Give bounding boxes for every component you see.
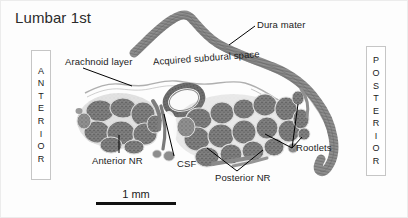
orientation-letter-anterior-4: R [38,115,45,128]
histology-figure: Lumbar 1st Dura mater Arachnoid layer Ac… [0,0,408,218]
figure-title: Lumbar 1st [15,10,91,25]
scale-bar: 1 mm [96,188,176,205]
scale-bar-line [96,202,176,205]
posterior-nerve-root-structure [173,94,309,167]
orientation-letter-posterior-2: S [373,80,379,93]
orientation-letter-posterior-5: R [373,117,380,130]
histology-image [1,1,408,218]
anterior-nerve-root-structure [76,93,175,161]
label-arachnoid-layer: Arachnoid layer [65,57,133,67]
label-csf: CSF [177,159,196,169]
orientation-letter-posterior-7: O [372,142,379,155]
label-posterior-nr: Posterior NR [215,173,271,183]
label-rootlets: Rootlets [296,143,332,153]
orientation-letter-posterior-6: I [375,130,378,143]
orientation-box-anterior: ANTERIOR [31,50,51,180]
orientation-letter-anterior-0: A [38,65,44,78]
orientation-letter-posterior-4: E [373,105,379,118]
orientation-letter-anterior-7: R [38,153,45,166]
orientation-letter-posterior-8: R [373,155,380,168]
label-dura-mater: Dura mater [257,20,306,30]
orientation-letter-anterior-6: O [37,140,44,153]
label-anterior-nr: Anterior NR [92,156,143,166]
orientation-letter-posterior-3: T [373,92,379,105]
orientation-letter-anterior-5: I [40,128,43,141]
leader-arachnoid-layer [83,68,132,86]
orientation-letter-anterior-1: N [38,77,45,90]
orientation-letter-posterior-0: P [373,54,379,67]
leader-dura-mater [229,26,255,45]
orientation-letter-posterior-1: O [372,67,379,80]
scale-bar-label: 1 mm [96,188,176,200]
orientation-box-posterior: POSTERIOR [366,46,386,176]
orientation-letter-anterior-2: T [38,90,44,103]
orientation-letter-anterior-3: E [38,102,44,115]
